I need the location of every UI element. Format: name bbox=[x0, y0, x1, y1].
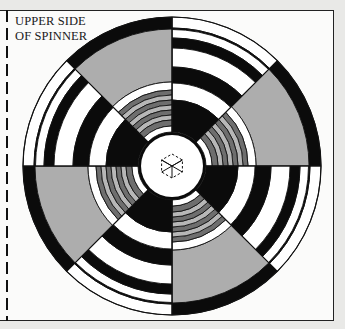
spinner-disc bbox=[0, 0, 345, 329]
